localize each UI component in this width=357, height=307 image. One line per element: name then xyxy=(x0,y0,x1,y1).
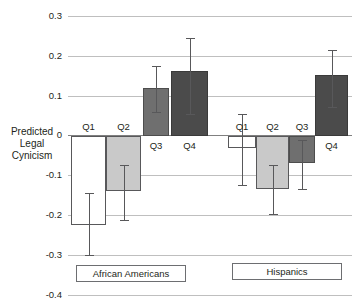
y-axis-title-line-2: Legal xyxy=(0,138,64,150)
group-label-african-americans: African Americans xyxy=(76,265,186,282)
y-tick-label-0: 0 xyxy=(28,130,62,140)
y-tick-label--0.2: -0.2 xyxy=(28,210,62,220)
error-cap-lower-african-americans-q4 xyxy=(186,114,195,115)
y-tick-label--0.3: -0.3 xyxy=(28,250,62,260)
error-bar-african-americans-q1 xyxy=(89,193,90,255)
error-bar-hispanics-q3 xyxy=(302,140,303,190)
error-cap-upper-african-americans-q2 xyxy=(120,165,129,166)
legal-cynicism-bar-chart: Predicted Legal Cynicism 0.3 0.2 0.1 0 -… xyxy=(0,0,357,307)
error-cap-upper-hispanics-q4 xyxy=(328,50,337,51)
error-cap-lower-african-americans-q1 xyxy=(85,255,94,256)
error-cap-upper-african-americans-q3 xyxy=(152,66,161,67)
error-cap-lower-hispanics-q3 xyxy=(298,189,307,190)
error-bar-hispanics-q4 xyxy=(332,50,333,107)
quartile-label-hispanics-q2: Q2 xyxy=(256,122,289,132)
plot-area: Q1Q2Q3Q4Q1Q2Q3Q4 xyxy=(68,16,352,295)
quartile-label-hispanics-q3: Q3 xyxy=(289,122,315,132)
quartile-label-african-americans-q2: Q2 xyxy=(106,122,141,132)
error-bar-african-americans-q3 xyxy=(156,66,157,112)
y-tick-label-0.1: 0.1 xyxy=(28,91,62,101)
error-cap-lower-hispanics-q4 xyxy=(328,107,337,108)
error-bar-african-americans-q2 xyxy=(124,165,125,220)
error-cap-upper-hispanics-q2 xyxy=(269,165,278,166)
error-cap-upper-african-americans-q1 xyxy=(85,193,94,194)
error-bar-african-americans-q4 xyxy=(190,38,191,114)
quartile-label-african-americans-q4: Q4 xyxy=(171,141,208,151)
y-tick-label--0.4: -0.4 xyxy=(28,290,62,300)
error-cap-lower-african-americans-q2 xyxy=(120,220,129,221)
group-label-hispanics: Hispanics xyxy=(232,263,342,280)
error-cap-lower-african-americans-q3 xyxy=(152,112,161,113)
error-bar-hispanics-q2 xyxy=(273,165,274,213)
error-cap-upper-hispanics-q3 xyxy=(298,140,307,141)
quartile-label-african-americans-q1: Q1 xyxy=(71,122,106,132)
quartile-label-hispanics-q1: Q1 xyxy=(228,122,256,132)
gridline--0.4 xyxy=(68,295,352,296)
y-tick-label-0.3: 0.3 xyxy=(28,11,62,21)
y-tick-label--0.1: -0.1 xyxy=(28,170,62,180)
error-cap-lower-hispanics-q2 xyxy=(269,214,278,215)
error-cap-upper-hispanics-q1 xyxy=(238,114,247,115)
quartile-label-hispanics-q4: Q4 xyxy=(315,141,348,151)
y-axis-title-line-3: Cynicism xyxy=(0,150,64,162)
quartile-label-african-americans-q3: Q3 xyxy=(143,141,169,151)
error-cap-lower-hispanics-q1 xyxy=(238,185,247,186)
y-tick-label-0.2: 0.2 xyxy=(28,51,62,61)
error-cap-upper-african-americans-q4 xyxy=(186,38,195,39)
